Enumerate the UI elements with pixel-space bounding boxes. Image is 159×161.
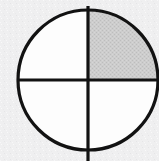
circle-diagram-svg <box>0 0 159 161</box>
fraction-circle-figure <box>0 0 159 161</box>
